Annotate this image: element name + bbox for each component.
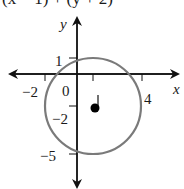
center-point: [91, 104, 100, 113]
x-label-4: 4: [144, 91, 152, 107]
equation-text: (x − 1) + (y + 2): [2, 0, 113, 8]
circle-graph: (x − 1) + (y + 2) y x 1 0 −2 4 −2 −5: [0, 0, 184, 189]
y-label-neg2: −2: [52, 111, 68, 127]
y-axis-label: y: [58, 16, 67, 32]
y-label-neg5: −5: [40, 148, 56, 164]
x-axis-label: x: [172, 81, 180, 97]
origin-label: 0: [62, 83, 70, 99]
y-label-1: 1: [55, 53, 63, 69]
x-label-neg2: −2: [22, 84, 38, 100]
